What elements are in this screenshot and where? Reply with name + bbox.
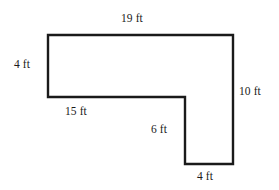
- dimension-label-top: 19 ft: [121, 11, 143, 25]
- l-shape-polygon: [0, 0, 279, 190]
- dimension-label-notch-vertical: 6 ft: [151, 122, 167, 136]
- dimension-label-right: 10 ft: [239, 84, 261, 98]
- dimension-label-bottom-left: 15 ft: [65, 104, 87, 118]
- dimension-label-bottom-right: 4 ft: [197, 169, 213, 183]
- geometry-figure: 19 ft 4 ft 15 ft 10 ft 6 ft 4 ft: [0, 0, 279, 190]
- dimension-label-left: 4 ft: [14, 57, 30, 71]
- l-shape-outline: [48, 35, 233, 164]
